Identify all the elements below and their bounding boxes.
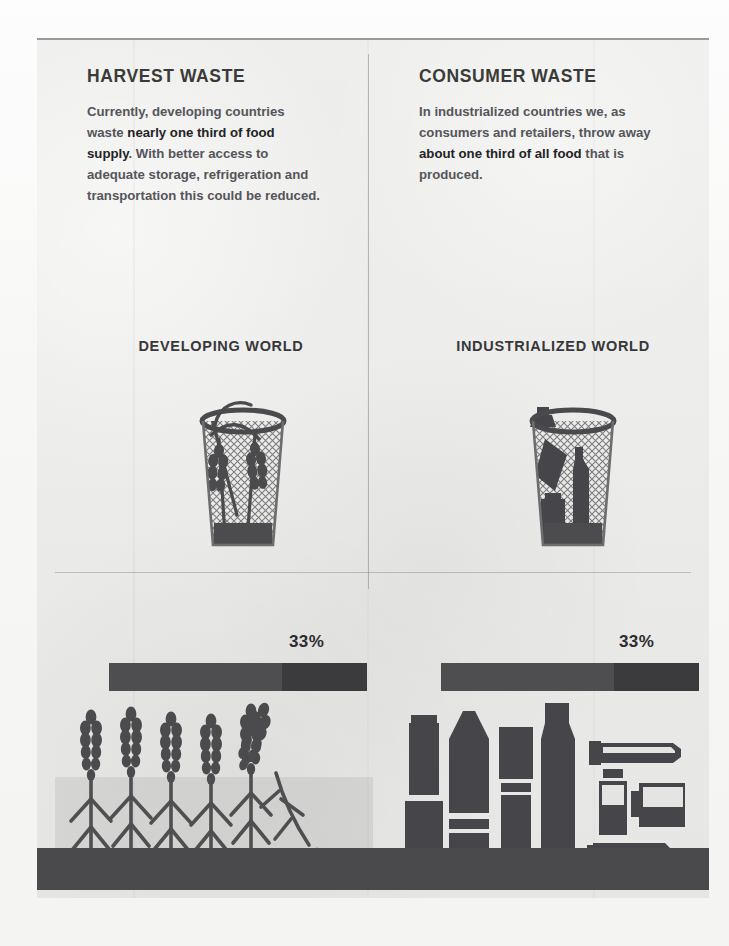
bar-segment-wasted (614, 663, 699, 691)
bar-segment-wasted (282, 663, 367, 691)
consumer-waste-heading: CONSUMER WASTE (419, 66, 671, 87)
consumer-body-emphasis: about one third of all food (419, 146, 582, 161)
bar-segment-not-wasted (441, 663, 614, 691)
harvest-waste-body: Currently, developing countries waste ne… (87, 101, 323, 206)
region-title-industrialized-world: INDUSTRIALIZED WORLD (419, 337, 687, 356)
percent-label-developing: 33% (289, 632, 324, 652)
bar-segment-not-wasted (109, 663, 282, 691)
horizon-band (55, 777, 373, 853)
infographic-panel: HARVEST WASTE Currently, developing coun… (37, 38, 709, 898)
ground-strip (37, 848, 709, 890)
harvest-waste-heading: HARVEST WASTE (87, 66, 339, 87)
percent-label-industrialized: 33% (619, 632, 654, 652)
bin-baseline-rule (55, 572, 691, 573)
proportion-bar-developing (109, 663, 367, 691)
column-harvest-waste: HARVEST WASTE Currently, developing coun… (87, 66, 339, 206)
column-divider (368, 54, 369, 589)
wastebasket-with-wheat-icon (185, 395, 301, 565)
consumer-waste-body: In industrialized countries we, as consu… (419, 101, 655, 185)
wastebasket-with-bottles-icon (515, 395, 631, 565)
consumer-body-lead: In industrialized countries we, as consu… (419, 104, 651, 140)
region-title-developing-world: DEVELOPING WORLD (87, 337, 355, 356)
column-consumer-waste: CONSUMER WASTE In industrialized countri… (419, 66, 671, 185)
proportion-bar-industrialized (441, 663, 699, 691)
